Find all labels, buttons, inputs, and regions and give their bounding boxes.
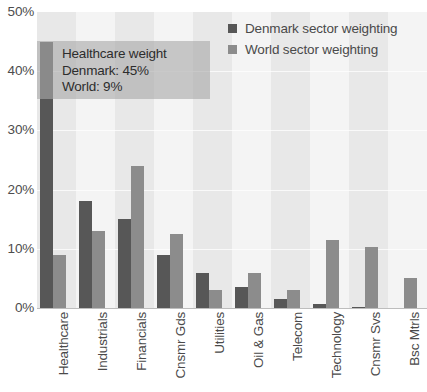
bar-denmark-telecom (274, 299, 287, 308)
legend: Denmark sector weighting World sector we… (228, 22, 397, 63)
y-tick-30: 30% (0, 124, 34, 138)
healthcare-callout: Healthcare weight Denmark: 45% World: 9% (37, 41, 210, 99)
y-tick-0: 0% (0, 301, 34, 315)
y-axis: 50% 40% 30% 20% 10% 0% (0, 0, 34, 320)
x-label-text: Telecom (291, 312, 305, 361)
x-label-bsc-mtrls: Bsc Mtrls (388, 310, 427, 390)
bar-denmark-oil-and-gas (235, 287, 248, 308)
y-tick-50: 50% (0, 5, 34, 19)
legend-swatch-denmark (228, 24, 237, 33)
x-label-cnsmr-svs: Cnsmr Svs (349, 310, 388, 390)
y-tick-20: 20% (0, 183, 34, 197)
x-label-oil-and-gas: Oil & Gas (232, 310, 271, 390)
bar-world-financials (131, 166, 144, 308)
legend-item-world[interactable]: World sector weighting (228, 43, 397, 57)
x-label-technology: Technology (310, 310, 349, 390)
x-label-industrials: Industrials (76, 310, 115, 390)
bar-world-bsc-mtrls (404, 278, 417, 308)
x-label-text: Financials (135, 312, 149, 371)
bar-world-utilities (209, 290, 222, 308)
bar-denmark-cnsmr-gds (157, 255, 170, 308)
x-label-text: Industrials (96, 312, 110, 371)
bar-denmark-industrials (79, 201, 92, 308)
callout-line-2: Denmark: 45% (62, 63, 210, 80)
bar-world-healthcare (53, 255, 66, 308)
x-axis-baseline (37, 308, 427, 309)
y-tick-10: 10% (0, 242, 34, 256)
y-tick-40: 40% (0, 64, 34, 78)
bar-world-cnsmr-gds (170, 234, 183, 308)
x-label-text: Cnsmr Gds (174, 312, 188, 378)
x-label-cnsmr-gds: Cnsmr Gds (154, 310, 193, 390)
x-label-utilities: Utilities (193, 310, 232, 390)
x-label-text: Technology (330, 312, 344, 378)
callout-line-1: Healthcare weight (62, 46, 210, 63)
bar-world-industrials (92, 231, 105, 308)
callout-line-3: World: 9% (62, 79, 210, 96)
bar-denmark-utilities (196, 273, 209, 309)
x-label-financials: Financials (115, 310, 154, 390)
x-label-text: Utilities (213, 312, 227, 354)
legend-label-denmark: Denmark sector weighting (245, 22, 397, 36)
x-axis-labels: Healthcare Industrials Financials Cnsmr … (37, 310, 427, 392)
sector-weighting-chart: 50% 40% 30% 20% 10% 0% (0, 0, 427, 392)
x-label-text: Oil & Gas (252, 312, 266, 368)
x-label-text: Healthcare (57, 312, 71, 375)
bar-denmark-financials (118, 219, 131, 308)
bar-world-technology (326, 240, 339, 308)
x-label-healthcare: Healthcare (37, 310, 76, 390)
x-label-text: Cnsmr Svs (369, 312, 383, 376)
legend-item-denmark[interactable]: Denmark sector weighting (228, 22, 397, 36)
legend-label-world: World sector weighting (245, 43, 378, 57)
bar-world-telecom (287, 290, 300, 308)
bar-world-oil-and-gas (248, 273, 261, 309)
x-label-telecom: Telecom (271, 310, 310, 390)
bar-world-cnsmr-svs (365, 247, 378, 308)
x-label-text: Bsc Mtrls (408, 312, 422, 366)
legend-swatch-world (228, 45, 237, 54)
